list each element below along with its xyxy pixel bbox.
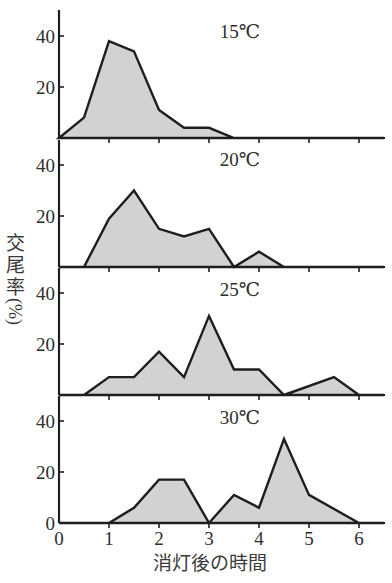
panel-25c: 204025℃ (36, 268, 385, 400)
y-tick-label: 20 (36, 334, 55, 355)
x-tick-label: 3 (204, 528, 214, 549)
x-tick-label: 6 (354, 528, 364, 549)
y-axis-label-unit: (%) (4, 298, 26, 325)
y-tick-label: 20 (36, 462, 55, 483)
panel-temperature-label: 20℃ (220, 149, 260, 170)
y-tick-label: 40 (36, 26, 55, 47)
series-area (59, 191, 384, 268)
panel-temperature-label: 25℃ (220, 279, 260, 300)
series-area (59, 316, 384, 395)
y-axis-label-char: 率 (4, 276, 26, 298)
x-tick-label: 0 (54, 528, 64, 549)
y-tick-label: 40 (36, 155, 55, 176)
y-tick-label: 20 (36, 206, 55, 227)
y-axis-label-char: 交 (4, 232, 26, 254)
series-area (59, 439, 384, 523)
panel-15c: 204015℃ (36, 10, 385, 143)
x-tick-label: 5 (304, 528, 314, 549)
y-tick-label: 40 (36, 411, 55, 432)
x-axis-tick-labels: 0123456 (54, 528, 364, 549)
y-tick-label: 40 (36, 283, 55, 304)
panel-20c: 204020℃ (36, 140, 385, 272)
y-axis-label: 交 尾 率 (%) (4, 232, 26, 325)
x-tick-label: 4 (254, 528, 264, 549)
panel-temperature-label: 30℃ (220, 407, 260, 428)
x-tick-label: 2 (154, 528, 164, 549)
x-axis-label: 消灯後の時間 (0, 548, 392, 575)
panel-temperature-label: 15℃ (220, 21, 260, 42)
y-tick-label: 20 (36, 77, 55, 98)
y-axis-label-char: 尾 (4, 254, 26, 276)
chart-canvas: 204015℃204020℃204025℃204030℃0 0123456 (0, 0, 392, 583)
series-area (59, 41, 384, 138)
chart-panels: 204015℃204020℃204025℃204030℃0 (36, 10, 385, 534)
panel-30c: 204030℃0 (36, 396, 385, 534)
x-tick-label: 1 (104, 528, 114, 549)
